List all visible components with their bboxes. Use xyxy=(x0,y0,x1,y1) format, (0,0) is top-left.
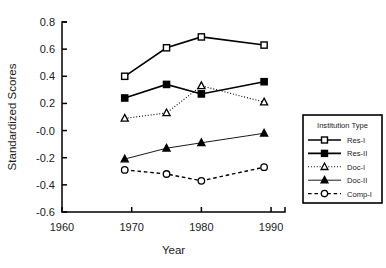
series-res-i xyxy=(122,34,268,80)
chart-figure: 0.80.60.40.2-0.0-0.2-0.4-0.6196019701980… xyxy=(0,0,386,268)
legend-label: Res-I xyxy=(347,136,365,145)
x-tick-label: 1980 xyxy=(189,221,213,233)
series-doc-ii xyxy=(121,129,268,161)
y-axis-title: Standardized Scores xyxy=(6,63,18,170)
line-chart-canvas: 0.80.60.40.2-0.0-0.2-0.4-0.6196019701980… xyxy=(0,0,386,268)
x-tick-label: 1960 xyxy=(50,221,74,233)
y-tick-label: 0.6 xyxy=(40,43,55,55)
series-comp-i xyxy=(121,164,267,184)
legend-title: Institution Type xyxy=(317,121,368,130)
legend-label: Doc-I xyxy=(347,163,365,172)
y-tick-label: -0.2 xyxy=(36,152,55,164)
y-tick-label: 0.2 xyxy=(40,97,55,109)
y-tick-label: 0.4 xyxy=(40,70,55,82)
x-axis: 1960197019801990 xyxy=(50,207,284,233)
series-doc-i xyxy=(121,82,268,121)
y-tick-label: -0.0 xyxy=(36,125,55,137)
series-res-ii xyxy=(122,79,268,101)
legend-label: Comp-I xyxy=(347,190,372,199)
y-tick-label: -0.4 xyxy=(36,179,55,191)
axes xyxy=(62,22,285,212)
legend-label: Doc-II xyxy=(347,176,367,185)
x-tick-label: 1970 xyxy=(119,221,143,233)
legend: Institution TypeRes-IRes-IIDoc-IDoc-IICo… xyxy=(303,115,382,203)
y-tick-label: 0.8 xyxy=(40,16,55,28)
x-tick-label: 1990 xyxy=(259,221,283,233)
legend-label: Res-II xyxy=(347,149,367,158)
y-tick-label: -0.6 xyxy=(36,206,55,218)
x-axis-title: Year xyxy=(162,244,185,256)
